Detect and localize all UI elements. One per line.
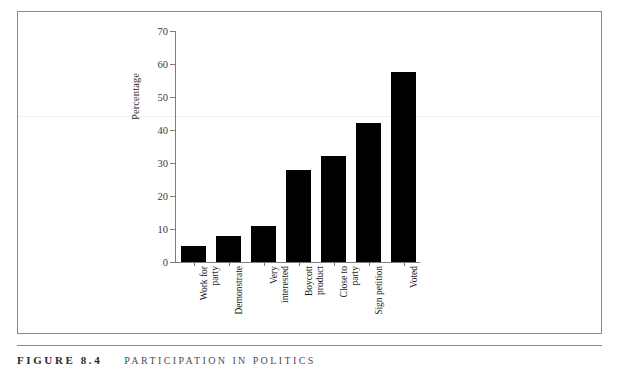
y-axis-tick-mark bbox=[170, 31, 175, 32]
caption-divider bbox=[17, 345, 602, 346]
y-axis-title: Percentage bbox=[130, 73, 141, 120]
y-axis-tick-mark bbox=[170, 130, 175, 131]
x-axis-category-label: Close to party bbox=[339, 266, 360, 328]
y-axis-tick-mark bbox=[170, 64, 175, 65]
bar bbox=[181, 246, 206, 263]
x-axis-category-label: Boycott product bbox=[304, 266, 325, 328]
bars-layer bbox=[176, 31, 420, 262]
y-axis-tick-label: 50 bbox=[158, 92, 169, 103]
x-axis-labels: Work for partyDemonstrateVery interested… bbox=[176, 266, 421, 328]
caption-title: PARTICIPATION IN POLITICS bbox=[124, 355, 315, 366]
y-axis-tick-label: 70 bbox=[158, 26, 169, 37]
y-axis-tick-label: 30 bbox=[158, 158, 169, 169]
y-axis-tick-mark bbox=[170, 262, 175, 263]
y-axis-tick-mark bbox=[170, 229, 175, 230]
x-axis-category-label: Demonstrate bbox=[234, 266, 245, 328]
y-axis-tick-mark bbox=[170, 163, 175, 164]
y-axis-tick-label: 60 bbox=[158, 59, 169, 70]
plot-area: 010203040506070 bbox=[175, 31, 420, 262]
bar bbox=[321, 156, 346, 262]
figure-caption: FIGURE 8.4 PARTICIPATION IN POLITICS bbox=[17, 352, 602, 368]
x-axis-category-label: Sign petition bbox=[374, 266, 385, 328]
x-axis-category-label: Very interested bbox=[269, 266, 290, 328]
bar bbox=[251, 226, 276, 262]
y-axis-tick-mark bbox=[170, 97, 175, 98]
x-axis-category-label: Voted bbox=[409, 266, 420, 328]
x-axis-category-label: Work for party bbox=[199, 266, 220, 328]
caption-figure-number: FIGURE 8.4 bbox=[17, 354, 102, 366]
y-axis-tick-label: 0 bbox=[163, 257, 168, 268]
bar bbox=[216, 236, 241, 262]
y-axis-tick-label: 10 bbox=[158, 224, 169, 235]
y-axis-tick-label: 40 bbox=[158, 125, 169, 136]
y-axis-tick-mark bbox=[170, 196, 175, 197]
bar bbox=[286, 170, 311, 262]
y-axis-tick-label: 20 bbox=[158, 191, 169, 202]
x-axis-line bbox=[175, 262, 420, 263]
bar bbox=[356, 123, 381, 262]
bar bbox=[391, 72, 416, 262]
